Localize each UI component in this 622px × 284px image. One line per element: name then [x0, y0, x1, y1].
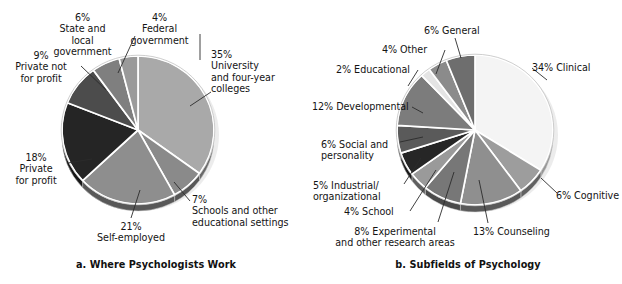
slice-label-other: 4% Other [382, 44, 452, 55]
slice-label-cognitive: 6% Cognitive [556, 190, 622, 201]
panel-subfields-of-psychology: 6% General 4% Other 2% Educational 12% D… [311, 0, 622, 284]
slice-label-private-for-profit: 18% Private for profit [5, 152, 67, 186]
slice-label-social-and-personality: 6% Social and personality [321, 139, 411, 162]
panel-a-caption: a. Where Psychologists Work [38, 259, 274, 270]
slice-label-educational: 2% Educational [336, 64, 428, 75]
slice-label-industrial-organizational: 5% Industrial/ organizational [313, 180, 410, 203]
slice-label-experimental-and-other-research-areas: 8% Experimental and other research areas [320, 226, 470, 249]
slice-label-counseling: 13% Counseling [473, 226, 570, 237]
slice-label-school: 4% School [344, 206, 420, 217]
slice-label-general: 6% General [424, 25, 509, 36]
slice-label-federal-government: 4% Federal government [117, 12, 202, 46]
slice-label-developmental: 12% Developmental [312, 101, 420, 112]
panel-b-caption: b. Subfields of Psychology [356, 259, 580, 270]
slice-label-self-employed: 21% Self-employed [79, 221, 183, 244]
slice-label-clinical: 34% Clinical [532, 62, 620, 73]
slice-label-schools-and-other-educational-settings: 7% Schools and other educational setting… [192, 194, 311, 228]
psychology-pie-figure: 6% State and local government 4% Federal… [0, 0, 622, 284]
slice-label-private-not-for-profit: 9% Private not for profit [2, 50, 80, 84]
panel-where-psychologists-work: 6% State and local government 4% Federal… [0, 0, 311, 284]
slice-label-university-and-four-year-colleges: 35% University and four-year colleges [211, 49, 306, 95]
